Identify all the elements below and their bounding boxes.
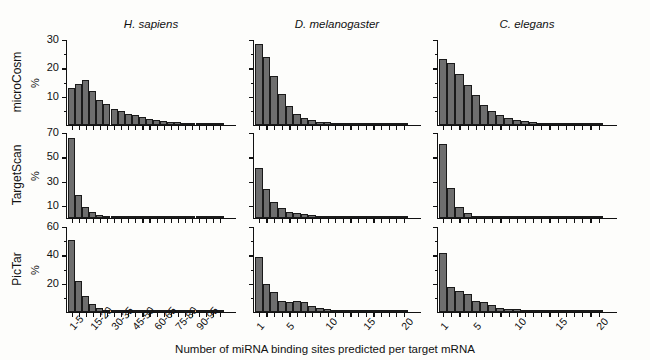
y-tick-label: 50: [37, 150, 59, 162]
bar: [324, 309, 332, 312]
x-tick: [266, 313, 267, 317]
x-tick: [320, 219, 321, 223]
y-tick-minor: [251, 133, 254, 134]
x-tick: [574, 126, 575, 130]
x-tick: [86, 126, 87, 130]
x-tick: [500, 219, 501, 223]
x-tick: [451, 219, 452, 223]
bar: [347, 216, 355, 218]
bar: [255, 168, 263, 218]
bar: [255, 44, 263, 125]
bar: [331, 310, 339, 312]
bar: [125, 216, 132, 218]
x-tick: [312, 126, 313, 130]
y-tick-minor: [64, 111, 67, 112]
percent-label-pictar: %: [29, 265, 41, 275]
y-tick-minor: [64, 83, 67, 84]
x-tick: [373, 313, 374, 317]
x-tick: [121, 219, 122, 223]
x-tick: [517, 126, 518, 130]
y-tick: [62, 284, 66, 285]
x-tick: [305, 313, 306, 317]
bar: [594, 310, 602, 312]
bar: [196, 216, 203, 218]
x-tick: [213, 219, 214, 223]
bar: [464, 294, 472, 312]
y-tick: [433, 227, 437, 228]
bar: [301, 118, 309, 125]
x-tick: [199, 126, 200, 130]
x-tick: [404, 219, 405, 223]
x-tick: [259, 126, 260, 130]
row-label-targetscan: TargetScan: [10, 133, 24, 217]
bar: [301, 214, 309, 218]
bar: [504, 216, 512, 218]
percent-label-microcosm: %: [29, 78, 41, 88]
panel-targetscan-dmelanogaster: [253, 133, 421, 218]
x-tick: [373, 219, 374, 223]
bar: [68, 138, 75, 218]
bar: [75, 195, 82, 218]
bar: [82, 296, 89, 312]
x-tick-label: 5: [470, 320, 483, 332]
bar: [362, 216, 370, 218]
x-tick: [459, 219, 460, 223]
bar: [339, 216, 347, 218]
y-tick: [62, 227, 66, 228]
x-tick: [525, 313, 526, 317]
x-tick: [328, 126, 329, 130]
x-tick: [358, 313, 359, 317]
x-tick: [121, 126, 122, 130]
x-tick: [335, 313, 336, 317]
bar: [496, 308, 504, 312]
y-tick: [433, 97, 437, 98]
x-tick: [476, 313, 477, 317]
bar: [554, 216, 562, 218]
x-tick: [468, 219, 469, 223]
x-tick: [500, 313, 501, 317]
x-tick: [289, 126, 290, 130]
y-tick: [249, 40, 253, 41]
x-tick: [558, 126, 559, 130]
x-tick: [517, 219, 518, 223]
x-tick: [389, 126, 390, 130]
bar: [545, 216, 553, 218]
bar: [464, 85, 472, 125]
bar: [586, 123, 594, 125]
x-tick: [274, 126, 275, 130]
x-tick: [396, 313, 397, 317]
bar: [562, 216, 570, 218]
y-tick-label: 40: [37, 248, 59, 260]
x-tick: [396, 126, 397, 130]
bar: [392, 310, 400, 312]
x-tick: [468, 313, 469, 317]
bar: [377, 310, 385, 312]
x-tick: [451, 126, 452, 130]
x-tick: [114, 219, 115, 223]
bar: [529, 216, 537, 218]
bar: [578, 310, 586, 312]
x-tick: [157, 126, 158, 130]
x-tick: [282, 219, 283, 223]
x-tick: [93, 219, 94, 223]
x-tick: [404, 126, 405, 130]
bar: [146, 119, 153, 125]
bar: [160, 121, 167, 125]
x-tick: [459, 126, 460, 130]
x-tick: [107, 126, 108, 130]
x-tick: [476, 219, 477, 223]
bar: [400, 310, 408, 312]
bar: [324, 216, 332, 218]
bar: [286, 302, 294, 312]
y-tick-minor: [64, 157, 67, 158]
x-tick: [171, 126, 172, 130]
bar: [447, 287, 455, 313]
panel-pictar-celegans: 15101520: [437, 227, 617, 312]
bar: [293, 213, 301, 218]
x-tick: [525, 219, 526, 223]
x-tick: [220, 126, 221, 130]
bar: [447, 63, 455, 125]
y-tick-minor: [435, 83, 438, 84]
y-tick-label: 30: [37, 175, 59, 187]
bar: [447, 188, 455, 218]
